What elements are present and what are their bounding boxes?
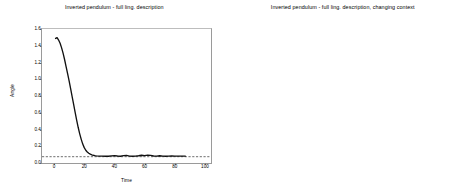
y-tick-label: 1.4 — [34, 43, 40, 48]
plot-area-left: 1.6 1.4 1.2 1.0 0.8 0.6 0.4 0.2 0.0 0 20… — [41, 28, 212, 164]
x-tick-label: 60 — [142, 165, 147, 170]
x-axis-label-left: Time — [41, 178, 212, 183]
y-tick-label: 1.6 — [34, 27, 40, 32]
data-series-angle-left — [42, 29, 211, 163]
y-tick-label: 1.2 — [34, 60, 40, 65]
x-tick-label: 20 — [82, 165, 87, 170]
y-tick-label: 1.0 — [34, 77, 40, 82]
y-axis-label-left: Angle — [10, 84, 15, 97]
y-tick-label: 0.2 — [34, 144, 40, 149]
x-tick-label: 40 — [112, 165, 117, 170]
y-tick-label: 0.6 — [34, 110, 40, 115]
y-tick-label: 0.8 — [34, 94, 40, 99]
chart-panel-left: Inverted pendulum - full ling. descripti… — [0, 0, 229, 194]
x-tick-label: 80 — [172, 165, 177, 170]
x-tick-label: 0 — [53, 165, 56, 170]
x-tick-label: 100 — [201, 165, 209, 170]
y-tick-label: 0.4 — [34, 127, 40, 132]
chart-panel-right: Inverted pendulum - full ling. descripti… — [229, 0, 457, 194]
figure-two-panel-plots: Inverted pendulum - full ling. descripti… — [0, 0, 457, 194]
chart-title-left: Inverted pendulum - full ling. descripti… — [0, 3, 229, 11]
chart-title-right: Inverted pendulum - full ling. descripti… — [229, 3, 457, 11]
y-tick-label: 0.0 — [34, 161, 40, 166]
